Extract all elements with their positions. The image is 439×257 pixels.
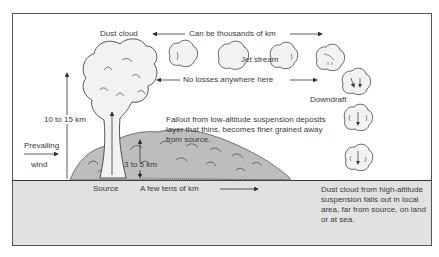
low-altitude-fallout-note: Fallout from low-altitude suspension dep… [166, 115, 326, 145]
cloud-4 [316, 44, 344, 70]
no-losses-label: No losses anywhere here [183, 75, 273, 85]
distance-span-label: Can be thousands of km [189, 29, 276, 39]
dust-cloud-label: Dust cloud [100, 29, 138, 39]
cloud-7 [345, 144, 373, 170]
jet-stream-label: Jet stream [241, 55, 278, 65]
cloud-6 [344, 104, 372, 130]
cloud-5 [342, 68, 370, 94]
high-altitude-fallout-note: Dust cloud from high-altitude suspension… [321, 185, 431, 225]
few-tens-km-label: A few tens of km [140, 184, 199, 194]
prevailing-wind-label-line2: wind [31, 160, 47, 170]
source-label: Source [93, 184, 118, 194]
downdraft-label: Downdraft [310, 95, 346, 105]
cloud-1 [169, 40, 197, 66]
height-low-label: 3 to 5 km [124, 160, 157, 170]
height-high-label: 10 to 15 km [44, 115, 86, 125]
prevailing-wind-label-line1: Prevailing [24, 141, 59, 151]
